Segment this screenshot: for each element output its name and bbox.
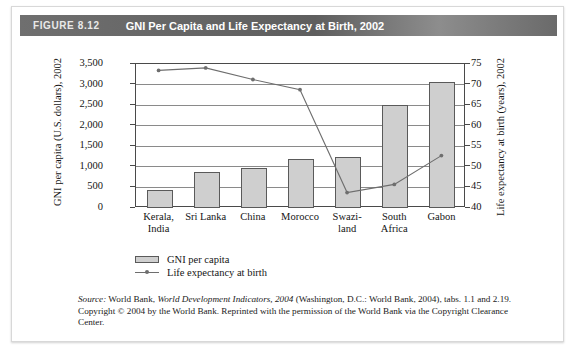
y-axis-right-tick-label: 60: [471, 119, 505, 130]
life-expectancy-data-point: [298, 88, 302, 92]
legend-item-life-expectancy: Life expectancy at birth: [135, 266, 267, 279]
life-expectancy-polyline: [159, 68, 442, 193]
y-axis-left-tick-label: 0: [63, 201, 103, 212]
life-expectancy-line-series: [135, 63, 465, 207]
y-axis-right-tick-mark: [465, 124, 470, 125]
life-expectancy-data-point: [204, 66, 208, 70]
source-note: Source: World Bank, World Development In…: [78, 294, 528, 329]
line-marker-icon: [145, 270, 149, 274]
legend-label-gni: GNI per capita: [167, 254, 229, 265]
life-expectancy-data-point: [345, 191, 349, 195]
y-axis-left-tick-label: 1,500: [63, 139, 103, 150]
y-axis-left-tick-label: 3,000: [63, 78, 103, 89]
x-axis-category-label-line2: India: [119, 223, 199, 235]
y-axis-left-tick-label: 3,500: [63, 57, 103, 68]
y-axis-right-tick-mark: [465, 63, 470, 64]
x-axis-category-label: Gabon: [401, 211, 481, 223]
y-axis-right-tick-mark: [465, 104, 470, 105]
y-axis-left-tick-label: 2,500: [63, 98, 103, 109]
y-axis-right-tick-label: 70: [471, 78, 505, 89]
line-swatch-icon: [135, 269, 159, 276]
life-expectancy-data-point: [251, 78, 255, 82]
figure-card: FIGURE 8.12 GNI Per Capita and Life Expe…: [11, 6, 564, 342]
source-part1: World Bank,: [106, 294, 157, 304]
y-axis-left-title: GNI per capita (U.S. dollars), 2002: [66, 0, 77, 57]
chart-region: GNI per capita (U.S. dollars), 2002 Life…: [67, 49, 507, 244]
figure-header-band: FIGURE 8.12 GNI Per Capita and Life Expe…: [20, 15, 557, 36]
y-axis-right-tick-mark: [465, 165, 470, 166]
y-axis-left-tick-label: 1,000: [63, 160, 103, 171]
y-axis-left-tick-label: 500: [63, 180, 103, 191]
legend-item-gni: GNI per capita: [135, 253, 267, 266]
y-axis-right-tick-label: 75: [471, 57, 505, 68]
x-axis-category-label-line1: Gabon: [401, 211, 481, 223]
x-axis-category-label-line2: Africa: [354, 223, 434, 235]
y-axis-right-tick-mark: [465, 186, 470, 187]
y-axis-right-title: Life expectancy at birth (years), 2002: [495, 0, 506, 57]
y-axis-left-tick-label: 2,000: [63, 119, 103, 130]
chart-legend: GNI per capita Life expectancy at birth: [135, 253, 267, 279]
source-publication-title: World Development Indicators, 2004: [157, 294, 293, 304]
figure-title: GNI Per Capita and Life Expectancy at Bi…: [126, 20, 385, 32]
life-expectancy-data-point: [157, 69, 161, 73]
y-axis-right-tick-label: 50: [471, 160, 505, 171]
source-word: Source:: [78, 294, 106, 304]
y-axis-right-tick-label: 45: [471, 180, 505, 191]
y-axis-right-tick-mark: [465, 83, 470, 84]
y-axis-left-title-text: GNI per capita (U.S. dollars), 2002: [52, 57, 63, 207]
life-expectancy-data-point: [392, 183, 396, 187]
y-axis-right-tick-label: 65: [471, 98, 505, 109]
y-axis-right-tick-mark: [465, 145, 470, 146]
y-axis-right-tick-label: 55: [471, 139, 505, 150]
life-expectancy-data-point: [440, 154, 444, 158]
legend-label-life-expectancy: Life expectancy at birth: [167, 267, 267, 278]
y-axis-right-tick-mark: [465, 207, 470, 208]
bar-swatch-icon: [135, 256, 159, 263]
